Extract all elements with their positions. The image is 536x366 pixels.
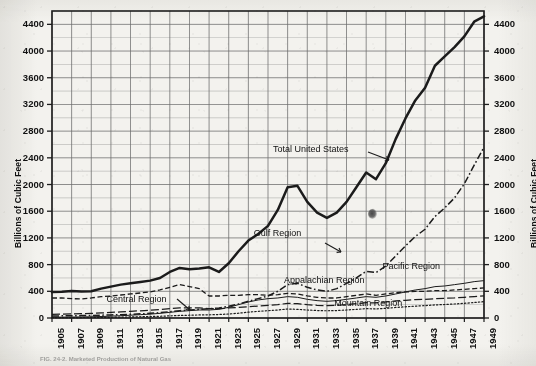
- series-label-pacific-region: Pacific Region: [382, 262, 440, 271]
- series-label-total-united-states: Total United States: [273, 145, 349, 154]
- series-label-mountain-region: Mountain Region: [334, 299, 402, 308]
- y-axis-title-left: Billions of Cubic Feet: [13, 159, 23, 248]
- series-label-appalachian-region: Appalachian Region: [284, 276, 365, 285]
- y-axis-title-right: Billions of Cubic Feet: [529, 159, 536, 248]
- figure-caption: FIG. 24-2. Marketed Production of Natura…: [40, 356, 171, 362]
- series-label-central-region: Central Region: [107, 295, 167, 304]
- scan-blemish: [368, 209, 377, 219]
- figure-natural-gas-production: 0400800120016002000240028003200360040004…: [0, 0, 536, 366]
- series-label-gulf-region: Gulf Region: [254, 229, 302, 238]
- series-annotations: Total United StatesGulf RegionCentral Re…: [0, 0, 536, 366]
